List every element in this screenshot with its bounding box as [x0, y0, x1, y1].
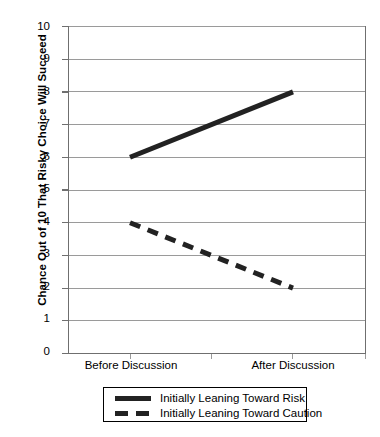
- legend-entry-caution: Initially Leaning Toward Caution: [104, 406, 306, 421]
- legend-swatch-solid-icon: [114, 391, 152, 406]
- chart-figure: Chance Out of 10 That Risky Choice Will …: [0, 0, 380, 437]
- y-tick-marks: [62, 27, 68, 354]
- chart-legend: Initially Leaning Toward Risk Initially …: [103, 387, 307, 422]
- legend-label-caution: Initially Leaning Toward Caution: [160, 406, 322, 421]
- x-tick-label-after: After Discussion: [243, 358, 343, 372]
- x-tick-label-before: Before Discussion: [80, 358, 182, 372]
- legend-label-risk: Initially Leaning Toward Risk: [160, 391, 305, 406]
- legend-swatch-dashed-icon: [114, 406, 152, 421]
- legend-entry-risk: Initially Leaning Toward Risk: [104, 391, 306, 406]
- gridlines: [68, 27, 366, 321]
